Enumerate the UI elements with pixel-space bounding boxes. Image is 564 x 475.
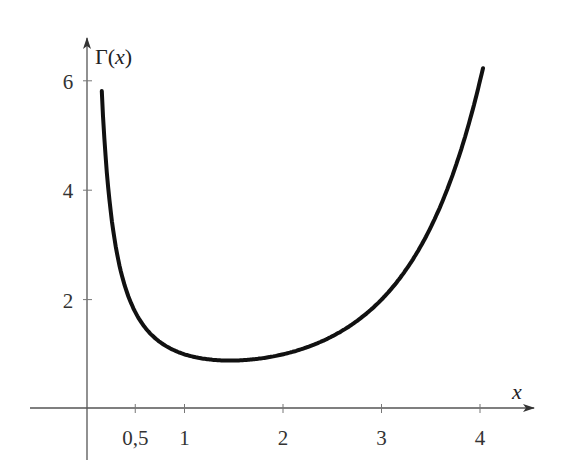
y-tick-label: 4	[63, 179, 74, 203]
y-tick-label: 6	[63, 70, 74, 94]
x-axis-label: x	[511, 379, 522, 404]
x-tick-label: 0,5	[122, 426, 148, 450]
y-axis-label: Γ(x)	[95, 44, 132, 69]
x-tick-label: 1	[179, 426, 190, 450]
x-tick-label: 3	[376, 426, 387, 450]
gamma-curve	[102, 68, 483, 360]
x-tick-label: 4	[475, 426, 486, 450]
axis-ticks: 0,51234246	[63, 70, 486, 450]
x-tick-label: 2	[278, 426, 289, 450]
gamma-chart: 0,51234246 Γ(x) x	[0, 0, 564, 475]
y-tick-label: 2	[63, 289, 74, 313]
